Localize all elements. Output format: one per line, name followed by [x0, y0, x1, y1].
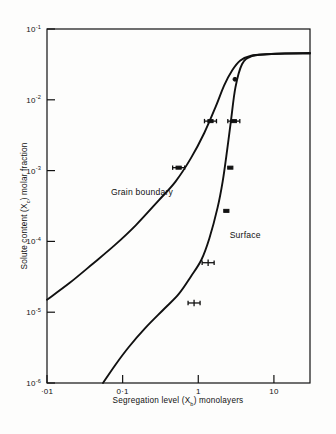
svg-text:Solute content (Xc) molar frac: Solute content (Xc) molar fraction: [20, 142, 31, 269]
plot-frame: [47, 29, 310, 383]
x-tick-label: 0·1: [117, 387, 130, 396]
segregation-chart: 10-110-210-310-410-510-6 ·010·1110 Grain…: [0, 0, 336, 434]
y-tick-label: 10-1: [26, 24, 41, 34]
data-point-marker: [176, 166, 181, 169]
y-axis-title: Solute content (Xc) molar fraction: [20, 142, 31, 269]
series-label-grain-boundary: Grain boundary: [111, 187, 174, 197]
data-point-marker: [231, 120, 236, 123]
series-label-surface: Surface: [230, 230, 261, 240]
figure-container: 10-110-210-310-410-510-6 ·010·1110 Grain…: [0, 0, 336, 434]
data-point-marker: [233, 77, 237, 81]
svg-text:Segregation level (Xb) monolay: Segregation level (Xb) monolayers: [113, 396, 244, 407]
x-axis-tick-labels: ·010·1110: [41, 387, 279, 396]
data-points-grain-boundary: [173, 119, 217, 170]
y-axis-ticks: [47, 29, 55, 383]
x-tick-label: 10: [269, 387, 279, 396]
data-point-marker: [224, 209, 229, 212]
x-axis-title: Segregation level (Xb) monolayers: [113, 396, 244, 407]
x-tick-label: 1: [196, 387, 201, 396]
data-point-marker: [208, 120, 213, 123]
x-tick-label: ·01: [41, 387, 54, 396]
y-tick-label: 10-2: [26, 94, 41, 104]
curve-grain-boundary: [47, 54, 310, 300]
data-point-marker: [228, 166, 233, 169]
y-tick-label: 10-5: [26, 307, 41, 317]
x-axis-ticks: [47, 375, 274, 383]
y-tick-label: 10-6: [26, 378, 41, 388]
curve-surface: [103, 53, 310, 383]
